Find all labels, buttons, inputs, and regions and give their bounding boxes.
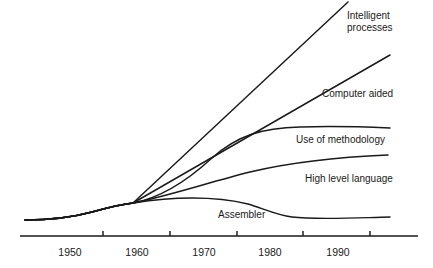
series-label-computer-aided: Computer aided — [322, 88, 393, 99]
series-label-intelligent-processes-line1: Intelligent — [347, 10, 390, 21]
series-line-intelligent-processes — [25, 2, 348, 220]
x-tick-label-1970: 1970 — [192, 246, 216, 258]
chart-container: 1950 1960 1970 1980 1990 Intelligent pro… — [0, 0, 433, 268]
x-tick-label-1950: 1950 — [58, 246, 82, 258]
series-line-high-level-language — [25, 155, 388, 220]
series-label-assembler: Assembler — [218, 209, 266, 220]
series-label-high-level-language: High level language — [305, 173, 393, 184]
series-group — [25, 2, 390, 220]
x-tick-label-1980: 1980 — [258, 246, 282, 258]
x-tick-label-1960: 1960 — [125, 246, 149, 258]
x-axis — [20, 231, 418, 236]
x-tick-label-1990: 1990 — [326, 246, 350, 258]
series-line-assembler — [25, 198, 390, 220]
x-axis-tick-labels: 1950 1960 1970 1980 1990 — [58, 246, 350, 258]
evolution-line-chart: 1950 1960 1970 1980 1990 Intelligent pro… — [0, 0, 433, 268]
series-label-intelligent-processes-line2: processes — [347, 22, 393, 33]
series-label-use-of-methodology: Use of methodology — [296, 134, 385, 145]
